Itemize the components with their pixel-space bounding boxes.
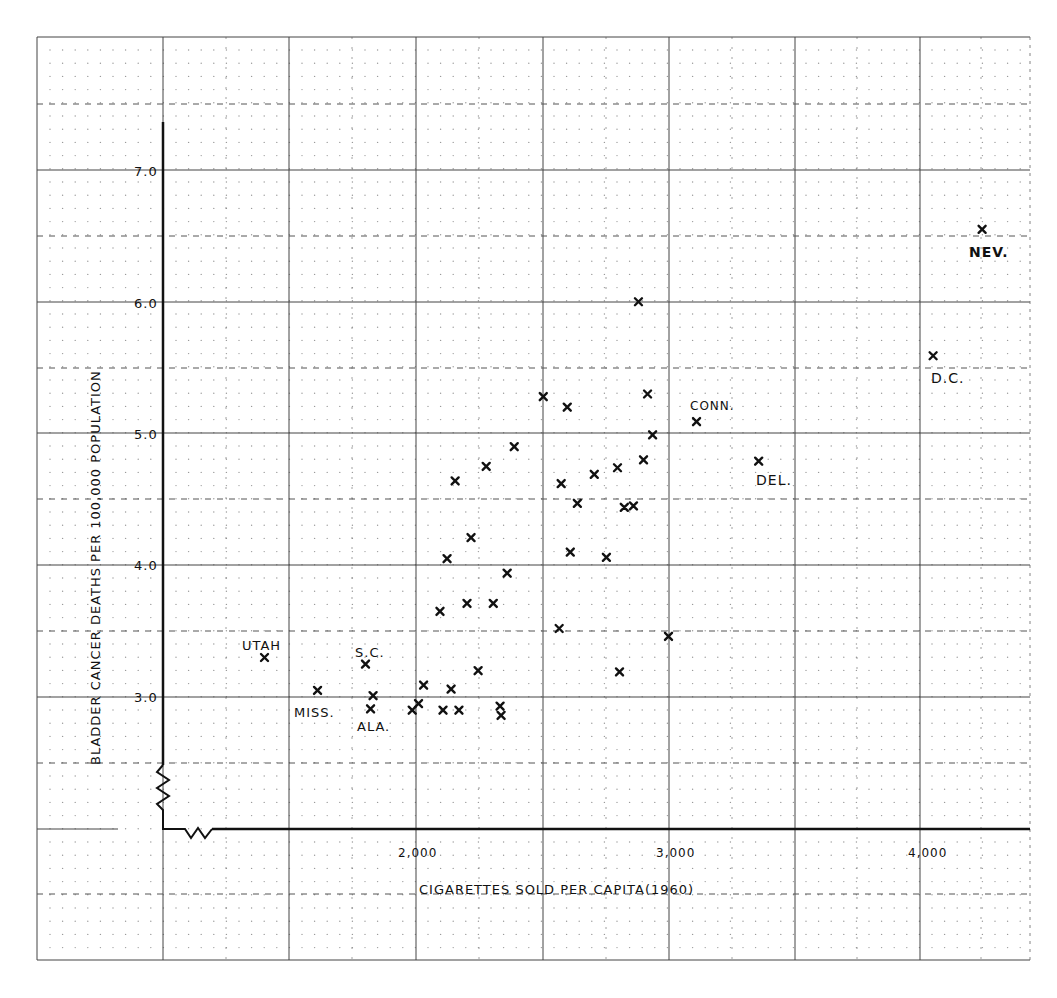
y-tick-label-6: 6.0 <box>134 296 158 311</box>
data-point <box>591 471 598 478</box>
data-point <box>979 226 986 233</box>
data-point <box>649 431 656 438</box>
data-point <box>468 534 475 541</box>
x-axis-title: CIGARETTES SOLD PER CAPITA(1960) <box>419 882 694 897</box>
annotation-dc: D.C. <box>931 370 964 386</box>
data-point <box>490 600 497 607</box>
data-point <box>370 692 377 699</box>
y-axis-title: BLADDER CANCER DEATHS PER 100,000 POPULA… <box>88 370 103 765</box>
x-tick-label-2000: 2,000 <box>398 846 437 860</box>
graph-paper-grid <box>37 37 1030 960</box>
data-point <box>616 668 623 675</box>
y-tick-label-7: 7.0 <box>134 164 158 179</box>
data-point <box>574 500 581 507</box>
data-point <box>483 463 490 470</box>
data-point <box>497 703 504 710</box>
data-point <box>436 608 443 615</box>
data-point <box>448 686 455 693</box>
data-point <box>511 443 518 450</box>
data-point <box>621 504 628 511</box>
data-point <box>367 705 374 712</box>
annotation-miss: MISS. <box>294 705 335 720</box>
data-point <box>464 600 471 607</box>
scatter-chart: 7.0 6.0 5.0 4.0 3.0 2,000 3,000 4,000 CI… <box>0 0 1057 998</box>
data-point <box>564 404 571 411</box>
annotation-utah: UTAH <box>242 638 281 653</box>
data-point <box>362 661 369 668</box>
annotation-nev: NEV. <box>969 244 1009 260</box>
data-point <box>558 480 565 487</box>
x-tick-label-3000: 3,000 <box>656 846 695 860</box>
y-tick-label-5: 5.0 <box>134 427 158 442</box>
data-point <box>475 667 482 674</box>
y-axis-break-icon <box>157 765 172 829</box>
data-point <box>556 625 563 632</box>
data-point <box>504 570 511 577</box>
data-point <box>603 554 610 561</box>
data-point <box>930 352 937 359</box>
data-point <box>693 418 700 425</box>
data-point <box>755 458 762 465</box>
data-point <box>314 687 321 694</box>
data-point <box>444 555 451 562</box>
data-point <box>630 502 637 509</box>
data-point <box>614 464 621 471</box>
data-point <box>261 654 268 661</box>
annotation-ala: ALA. <box>357 719 390 734</box>
data-point <box>644 390 651 397</box>
data-point <box>567 549 574 556</box>
data-point <box>455 707 462 714</box>
y-tick-label-3: 3.0 <box>134 690 158 705</box>
y-tick-label-4: 4.0 <box>134 558 158 573</box>
x-tick-label-4000: 4,000 <box>908 846 947 860</box>
data-point <box>420 682 427 689</box>
x-axis-break-icon <box>167 828 212 838</box>
annotation-conn: CONN. <box>690 399 735 413</box>
x-axis <box>167 828 1030 838</box>
data-point <box>452 477 459 484</box>
data-point <box>640 456 647 463</box>
annotation-del: DEL. <box>756 472 792 488</box>
annotation-sc: S.C. <box>355 645 385 660</box>
y-axis <box>157 122 172 829</box>
data-point <box>498 712 505 719</box>
